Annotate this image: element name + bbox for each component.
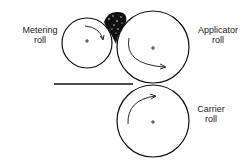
coating-roll-diagram: Metering roll Applicator roll Carrier ro… — [0, 0, 252, 168]
applicator-roll-label: Applicator roll — [192, 25, 244, 45]
carrier-roll — [117, 85, 189, 157]
applicator-roll — [117, 11, 189, 83]
label-line: roll — [18, 35, 62, 45]
label-line: Metering — [18, 25, 62, 35]
carrier-roll-label: Carrier roll — [193, 104, 229, 124]
label-line: roll — [193, 114, 229, 124]
label-line: Applicator — [192, 25, 244, 35]
metering-roll — [62, 18, 112, 68]
metering-roll-label: Metering roll — [18, 25, 62, 45]
label-line: roll — [192, 35, 244, 45]
label-line: Carrier — [193, 104, 229, 114]
